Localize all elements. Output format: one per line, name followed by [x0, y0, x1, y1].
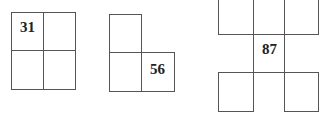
cell	[218, 0, 254, 35]
cell	[284, 0, 319, 35]
cell	[43, 50, 76, 90]
cell	[109, 14, 142, 53]
figure-label: 87	[262, 42, 277, 57]
figure-label: 31	[20, 20, 35, 35]
cell	[218, 72, 254, 112]
cell	[253, 0, 285, 35]
cell	[11, 50, 44, 90]
cell	[43, 12, 76, 51]
cell	[284, 72, 319, 112]
figure-label: 56	[150, 62, 165, 77]
cell	[109, 52, 142, 92]
